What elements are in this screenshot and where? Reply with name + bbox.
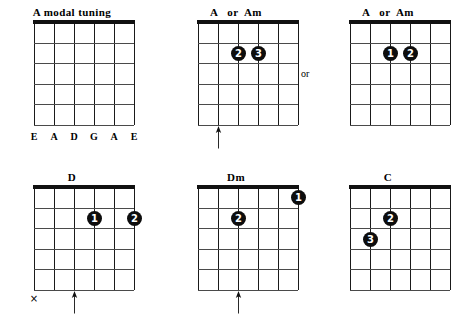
string-line-4	[410, 22, 411, 125]
chord-title-c: C	[318, 171, 458, 184]
string-label-1: E	[26, 131, 42, 142]
string-label-2: A	[46, 131, 62, 142]
fret-line-1	[350, 43, 450, 44]
fret-line-4	[34, 269, 134, 270]
string-line-3	[238, 187, 239, 290]
string-line-3	[390, 187, 391, 290]
nut-bar	[33, 185, 135, 189]
string-label-5: A	[106, 131, 122, 142]
string-line-6	[450, 187, 451, 290]
string-line-3	[74, 187, 75, 290]
finger-dot-1: 1	[291, 190, 306, 205]
muted-string-marker: ×	[28, 294, 40, 304]
fret-line-1	[34, 43, 134, 44]
chord-title-dm: Dm	[166, 171, 306, 184]
finger-dot-2: 2	[231, 46, 246, 61]
string-line-1	[350, 187, 351, 290]
fret-line-2	[34, 228, 134, 229]
or-connector-label: or	[301, 68, 309, 79]
string-line-1	[350, 22, 351, 125]
nut-bar	[349, 20, 451, 24]
string-label-3: D	[66, 131, 82, 142]
chord-title-a-or-am-1: A or Am	[166, 6, 306, 19]
string-line-1	[198, 187, 199, 290]
fretboard-grid-d: 12	[34, 187, 134, 290]
string-line-5	[430, 187, 431, 290]
fret-line-3	[34, 84, 134, 85]
string-line-2	[370, 22, 371, 125]
nut-bar	[197, 185, 299, 189]
string-line-6	[450, 22, 451, 125]
chord-title-a-modal-tuning: A modal tuning	[2, 6, 142, 19]
string-arrow-marker	[234, 291, 243, 315]
string-line-3	[238, 22, 239, 125]
finger-dot-2: 2	[231, 211, 246, 226]
fret-line-3	[350, 84, 450, 85]
string-line-1	[198, 22, 199, 125]
chord-title-d: D	[2, 171, 142, 184]
string-line-4	[258, 187, 259, 290]
string-line-4	[258, 22, 259, 125]
fret-line-1	[350, 208, 450, 209]
string-line-2	[54, 22, 55, 125]
string-label-6: E	[126, 131, 142, 142]
fret-line-2	[34, 63, 134, 64]
string-line-4	[410, 187, 411, 290]
nut-bar	[197, 20, 299, 24]
fretboard-grid-a-or-am-1: 23	[198, 22, 298, 125]
fret-line-3	[198, 249, 298, 250]
fret-line-3	[198, 84, 298, 85]
fret-line-1	[34, 208, 134, 209]
string-line-4	[94, 22, 95, 125]
string-line-6	[298, 22, 299, 125]
finger-dot-1: 1	[383, 46, 398, 61]
string-line-6	[134, 187, 135, 290]
fretboard-grid-c: 23	[350, 187, 450, 290]
string-arrow-marker	[214, 126, 223, 150]
finger-dot-3: 3	[251, 46, 266, 61]
fret-line-3	[350, 249, 450, 250]
string-line-5	[114, 187, 115, 290]
fret-line-4	[350, 104, 450, 105]
fret-line-4	[350, 269, 450, 270]
fret-line-5	[350, 125, 450, 126]
string-line-3	[74, 22, 75, 125]
finger-dot-2: 2	[403, 46, 418, 61]
string-line-5	[278, 22, 279, 125]
string-line-5	[430, 22, 431, 125]
fret-line-1	[198, 43, 298, 44]
fret-line-4	[198, 104, 298, 105]
string-line-1	[34, 187, 35, 290]
fret-line-2	[198, 63, 298, 64]
fret-line-5	[198, 290, 298, 291]
fret-line-5	[34, 125, 134, 126]
fret-line-2	[350, 63, 450, 64]
string-arrow-marker	[70, 291, 79, 315]
string-line-5	[278, 187, 279, 290]
fretboard-grid-a-or-am-2: 12	[350, 22, 450, 125]
fret-line-3	[34, 249, 134, 250]
fret-line-1	[198, 208, 298, 209]
string-line-1	[34, 22, 35, 125]
string-line-3	[390, 22, 391, 125]
fretboard-grid-a-modal-tuning	[34, 22, 134, 125]
string-line-2	[54, 187, 55, 290]
string-line-4	[94, 187, 95, 290]
finger-dot-1: 1	[87, 211, 102, 226]
fret-line-5	[350, 290, 450, 291]
fret-line-5	[198, 125, 298, 126]
chord-title-a-or-am-2: A or Am	[318, 6, 458, 19]
nut-bar	[33, 20, 135, 24]
fret-line-4	[34, 104, 134, 105]
fret-line-2	[350, 228, 450, 229]
finger-dot-2: 2	[383, 211, 398, 226]
string-line-2	[218, 22, 219, 125]
fret-line-5	[34, 290, 134, 291]
fret-line-2	[198, 228, 298, 229]
nut-bar	[349, 185, 451, 189]
finger-dot-3: 3	[363, 232, 378, 247]
fretboard-grid-dm: 12	[198, 187, 298, 290]
string-line-2	[218, 187, 219, 290]
string-label-4: G	[86, 131, 102, 142]
chord-chart-sheet: or A modal tuningEADGAEA or Am23A or Am1…	[0, 0, 467, 329]
